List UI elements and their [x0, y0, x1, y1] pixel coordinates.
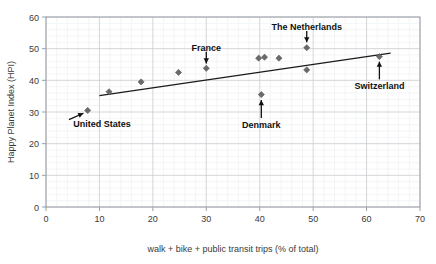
data-point — [256, 55, 262, 61]
annotation-label: The Netherlands — [271, 22, 342, 32]
data-point — [85, 107, 91, 113]
y-axis-tick-label: 30 — [29, 108, 39, 118]
data-point — [175, 69, 181, 75]
y-axis-tick-label: 50 — [29, 44, 39, 54]
x-axis-tick-label: 10 — [94, 214, 104, 224]
annotation-label: Switzerland — [354, 81, 404, 91]
x-axis-tick-label: 50 — [308, 214, 318, 224]
annotation-label: France — [192, 43, 222, 53]
trendline — [99, 53, 390, 95]
scatter-chart: 0102030405060700102030405060walk + bike … — [0, 0, 436, 264]
x-axis-tick-label: 30 — [201, 214, 211, 224]
annotation-arrowhead — [204, 58, 209, 63]
annotation-label: Denmark — [242, 120, 282, 130]
x-axis-tick-label: 40 — [255, 214, 265, 224]
y-axis-tick-label: 40 — [29, 76, 39, 86]
x-axis-tick-label: 20 — [148, 214, 158, 224]
grid-layer — [46, 17, 420, 207]
x-axis-tick-label: 0 — [43, 214, 48, 224]
data-point — [203, 65, 209, 71]
x-axis-tick-label: 70 — [415, 214, 425, 224]
data-point — [138, 79, 144, 85]
y-axis-tick-label: 60 — [29, 13, 39, 23]
data-point — [304, 45, 310, 51]
y-axis-title: Happy Planet Index (HPI) — [6, 61, 16, 163]
chart-canvas: 0102030405060700102030405060walk + bike … — [0, 0, 436, 264]
annotation-label: United States — [73, 119, 131, 129]
y-axis-tick-label: 20 — [29, 139, 39, 149]
y-axis-tick-label: 0 — [34, 203, 39, 213]
annotation-arrowhead — [304, 37, 309, 42]
data-point — [258, 91, 264, 97]
y-axis-tick-label: 10 — [29, 171, 39, 181]
x-axis-title: walk + bike + public transit trips (% of… — [146, 244, 318, 254]
x-axis-tick-label: 60 — [362, 214, 372, 224]
